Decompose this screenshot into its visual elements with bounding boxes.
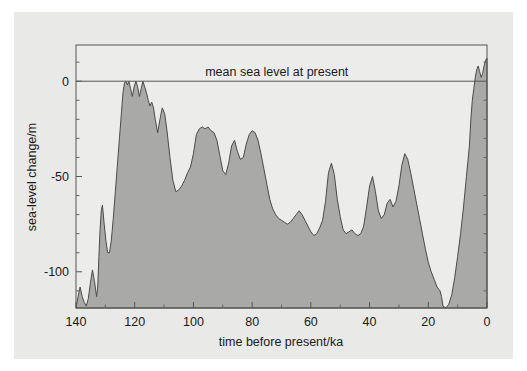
x-axis-title: time before present/ka (219, 335, 343, 349)
x-tick-label-60: 60 (304, 315, 318, 329)
x-tick-label-20: 20 (421, 315, 435, 329)
y-tick-label-0: 0 (62, 75, 69, 89)
figure-panel: mean sea level at present 14012010080604… (14, 12, 513, 359)
sea-level-chart: mean sea level at present 14012010080604… (14, 12, 513, 359)
x-tick-label-100: 100 (183, 315, 204, 329)
x-tick-label-0: 0 (484, 315, 491, 329)
y-tick-label--50: -50 (51, 170, 69, 184)
x-tick-label-80: 80 (245, 315, 259, 329)
mean-sea-level-annotation: mean sea level at present (205, 65, 349, 79)
x-tick-label-140: 140 (66, 315, 87, 329)
y-tick-label--100: -100 (44, 265, 69, 279)
y-axis-title: sea-level change/m (25, 123, 39, 231)
x-tick-label-120: 120 (124, 315, 145, 329)
x-tick-label-40: 40 (363, 315, 377, 329)
